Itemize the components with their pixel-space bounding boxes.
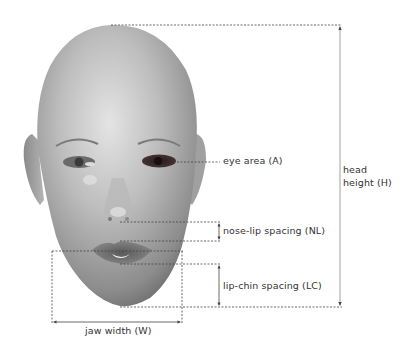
nostril-right <box>125 217 129 221</box>
head-height-arrowhead-top <box>338 26 341 30</box>
eye-area-label: eye area (A) <box>223 155 283 166</box>
nose-lip-arrowhead-top <box>218 223 221 227</box>
head-height-label-line2: height (H) <box>343 177 392 188</box>
left-iris <box>75 158 84 167</box>
right-iris <box>154 157 162 165</box>
left-eye-highlight <box>85 162 95 166</box>
lip-chin-arrowhead-bottom <box>218 303 221 307</box>
face-measurement-diagram: eye area (A) head height (H) nose-lip sp… <box>0 0 404 354</box>
jaw-arrowhead-right <box>178 321 182 324</box>
lip-chin-arrowhead-top <box>218 265 221 269</box>
cheek-highlight <box>83 175 97 185</box>
jaw-width-label: jaw width (W) <box>85 325 152 336</box>
nose-lip-label: nose-lip spacing (NL) <box>223 225 325 236</box>
nostril-left <box>108 217 112 221</box>
nose-lip-arrowhead-bottom <box>218 237 221 241</box>
nose-tip-highlight <box>110 207 126 217</box>
head-height-label-line1: head <box>343 164 367 175</box>
lip-chin-label: lip-chin spacing (LC) <box>223 280 322 291</box>
head-height-arrowhead-bottom <box>338 302 341 306</box>
jaw-arrowhead-left <box>53 321 57 324</box>
